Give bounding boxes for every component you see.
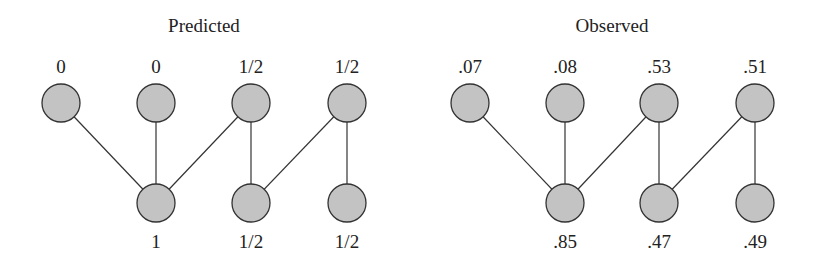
- panel-observed: Observed .07 .08 .53 .51: [451, 15, 774, 252]
- edge: [61, 103, 156, 203]
- node: [736, 184, 774, 222]
- node-label: .85: [553, 231, 577, 252]
- panel-title: Predicted: [168, 15, 240, 36]
- panel-predicted: Predicted 0 0 1/2 1/2: [42, 15, 366, 252]
- node: [736, 84, 774, 122]
- node-label: .47: [647, 231, 671, 252]
- node: [546, 184, 584, 222]
- edge: [156, 103, 251, 203]
- diagram-canvas: Predicted 0 0 1/2 1/2: [0, 0, 814, 263]
- node-label: .07: [458, 56, 482, 77]
- bottom-nodes: 1 1/2 1/2: [137, 184, 366, 252]
- node-label: .08: [553, 56, 577, 77]
- node: [232, 184, 270, 222]
- edge: [565, 103, 659, 203]
- node-label: 0: [151, 56, 161, 77]
- node-label: 1/2: [335, 56, 359, 77]
- node: [42, 84, 80, 122]
- diagram-svg: Predicted 0 0 1/2 1/2: [0, 0, 814, 263]
- bottom-nodes: .85 .47 .49: [546, 184, 774, 252]
- edge: [470, 103, 565, 203]
- node-label: 1/2: [239, 231, 263, 252]
- node: [328, 84, 366, 122]
- edge: [659, 103, 755, 203]
- node-label: 0: [56, 56, 66, 77]
- top-nodes: .07 .08 .53 .51: [451, 56, 774, 122]
- node-label: 1/2: [335, 231, 359, 252]
- top-nodes: 0 0 1/2 1/2: [42, 56, 366, 122]
- node: [232, 84, 270, 122]
- node: [451, 84, 489, 122]
- node: [328, 184, 366, 222]
- node-label: .51: [743, 56, 767, 77]
- node: [546, 84, 584, 122]
- node-label: 1: [151, 231, 161, 252]
- edges: [61, 103, 347, 203]
- panel-title: Observed: [576, 15, 649, 36]
- node-label: 1/2: [239, 56, 263, 77]
- node: [137, 84, 175, 122]
- node-label: .49: [743, 231, 767, 252]
- node: [640, 184, 678, 222]
- edges: [470, 103, 755, 203]
- node-label: .53: [647, 56, 671, 77]
- node: [640, 84, 678, 122]
- node: [137, 184, 175, 222]
- edge: [251, 103, 347, 203]
